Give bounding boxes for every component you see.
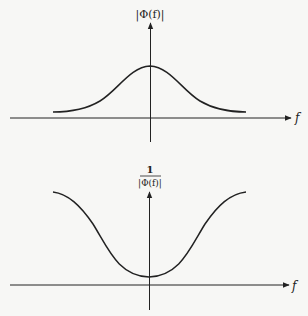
bottom-y-label-numerator: 1 xyxy=(147,164,154,175)
top-plot: |Φ(f)| f xyxy=(10,8,302,142)
top-y-label: |Φ(f)| xyxy=(135,8,164,22)
bottom-plot: 1 |Φ(f)| f xyxy=(10,164,299,310)
top-x-label: f xyxy=(294,111,302,125)
top-magnitude-curve xyxy=(53,66,246,112)
bottom-y-label-denominator: |Φ(f)| xyxy=(138,178,162,189)
diagram-canvas: |Φ(f)| f 1 |Φ(f)| f xyxy=(0,0,308,316)
bottom-x-label: f xyxy=(291,279,299,293)
